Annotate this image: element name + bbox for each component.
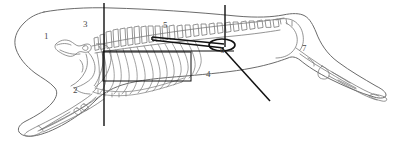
spinous-process-14-path [185, 25, 191, 37]
hindquarter-group [276, 19, 387, 102]
rib-03-path [107, 51, 114, 93]
rib-06-path [130, 48, 137, 94]
rib-05-path [122, 49, 129, 94]
spinous-process-07-path [134, 26, 140, 44]
body-outline-group [15, 8, 386, 137]
rib-07-path [137, 47, 145, 93]
spinous-process-18-path [217, 23, 223, 33]
ilium-path [276, 23, 297, 58]
spinous-process-19-path [225, 22, 231, 32]
nasal-ridge-path [57, 44, 71, 46]
costal-arch-path [95, 78, 184, 92]
spinous-process-21-path [241, 21, 247, 30]
sacral-segment-1-path [280, 19, 281, 24]
sternum-path [93, 82, 182, 96]
spinous-process-03-path [106, 31, 112, 48]
orbit-path [83, 46, 89, 51]
spinous-process-08-path [141, 26, 147, 43]
spinous-process-05-path [120, 28, 126, 46]
label-3: 3 [83, 20, 88, 29]
label-7: 7 [302, 44, 307, 53]
hock-joint-path [318, 66, 329, 79]
vertebral-column-group [92, 18, 284, 53]
hyoid-path [80, 60, 83, 72]
metacarpus-path [43, 99, 104, 132]
sacrum-path [276, 19, 303, 50]
scapula-spine-path [94, 46, 103, 86]
label-4: 4 [206, 70, 211, 79]
spinous-process-15-path [193, 24, 199, 36]
spinous-process-20-path [233, 22, 239, 31]
anatomical-line-drawing [0, 0, 393, 163]
spinous-process-17-path [209, 23, 215, 34]
spinous-process-04-path [113, 29, 119, 47]
mandible-body-path [71, 54, 87, 86]
diagonal-leader-line [222, 48, 270, 101]
spinous-process-06-path [127, 27, 133, 45]
spinous-process-16-path [201, 24, 207, 35]
label-2: 2 [73, 86, 78, 95]
phalanx-line-path [42, 112, 70, 129]
label-6: 6 [220, 46, 225, 55]
figure-canvas: 1 2 3 4 5 6 7 [0, 0, 393, 163]
carcass-outline-path [15, 8, 386, 137]
label-1: 1 [44, 32, 49, 41]
rib-08-path [144, 46, 153, 92]
label-5: 5 [163, 21, 168, 30]
mandible-ramus-path [74, 52, 95, 88]
